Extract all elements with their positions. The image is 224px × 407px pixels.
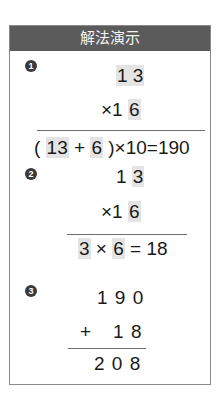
panel-title: 解法演示 — [10, 26, 210, 51]
step-1-divider — [37, 130, 205, 131]
step-3-sum: 2 0 8 — [94, 353, 141, 375]
step-3-divider — [68, 348, 146, 349]
highlight-digit: 3 — [132, 166, 145, 187]
highlight-number: 13 — [46, 137, 69, 158]
digit: 1 — [116, 166, 127, 187]
step-2-multiplicand: 1 3 — [116, 166, 144, 188]
digit: 1 — [112, 201, 123, 222]
step-3-badge: 3 — [25, 285, 37, 297]
multiply-sign: × — [101, 201, 112, 222]
step-2-multiplier: ×1 6 — [101, 201, 141, 223]
highlight-number: 3 — [78, 238, 91, 259]
step-2-divider — [67, 234, 187, 235]
result-tail: = 18 — [130, 238, 168, 259]
step-3-addend-1: 1 9 0 — [97, 287, 144, 309]
highlight-digit: 6 — [128, 99, 141, 120]
step-1-badge: 1 — [25, 60, 37, 72]
plus-sign: + — [80, 321, 91, 342]
step-2-badge: 2 — [25, 168, 37, 180]
addend-number: 1 8 — [113, 321, 142, 342]
solution-panel: 解法演示 1 1 3 ×1 6 ( 13 + 6 )×10=190 2 1 3 … — [9, 25, 211, 385]
step-3-addend-2: +1 8 — [80, 321, 143, 343]
plus-sign: + — [74, 137, 85, 158]
multiply-sign: × — [101, 99, 112, 120]
highlight-digits: 1 3 — [116, 65, 144, 86]
open-paren: ( — [34, 137, 40, 158]
digit: 3 — [133, 65, 144, 86]
highlight-number: 6 — [90, 137, 103, 158]
multiply-sign: × — [96, 238, 107, 259]
result-tail: )×10=190 — [108, 137, 189, 158]
digit: 1 — [117, 65, 128, 86]
digit: 1 — [112, 99, 123, 120]
step-1-multiplier: ×1 6 — [101, 99, 141, 121]
step-1-result: ( 13 + 6 )×10=190 — [34, 137, 190, 159]
highlight-digit: 6 — [128, 201, 141, 222]
step-1-multiplicand: 1 3 — [116, 65, 144, 87]
highlight-number: 6 — [112, 238, 125, 259]
step-2-result: 3 × 6 = 18 — [78, 238, 168, 260]
